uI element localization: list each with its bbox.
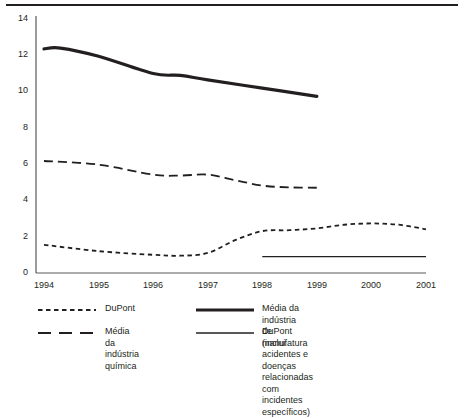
legend-label: Média da indústria química	[105, 326, 139, 372]
legend-swatch-dotted	[38, 304, 98, 316]
series-line-dupont	[44, 223, 426, 255]
legend-swatch-dashed	[38, 327, 98, 339]
series-line-quimica	[44, 161, 317, 188]
legend-swatch-thick-solid	[196, 304, 256, 316]
legend-label: DuPont (inclui acidentes e doenças relac…	[262, 326, 313, 418]
series-line-manufatura	[44, 48, 317, 97]
chart-legend: DuPont Média da indústria de manufatura …	[0, 300, 465, 364]
legend-label: DuPont	[105, 303, 135, 315]
legend-swatch-thin-solid	[196, 327, 256, 339]
